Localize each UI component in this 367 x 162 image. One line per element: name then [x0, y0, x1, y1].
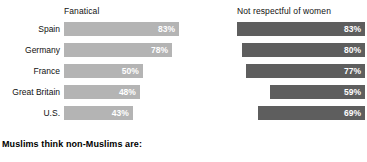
bar-fanatical: 48% — [64, 85, 140, 99]
bar-track-right: 69% — [237, 106, 365, 120]
bar-value-label: 59% — [344, 85, 361, 99]
bar-value-label: 43% — [112, 106, 129, 120]
bar-track-right: 83% — [237, 22, 365, 36]
chart-container: Fanatical Not respectful of women Spain … — [0, 0, 367, 162]
chart-row: Spain 83% 83% — [0, 22, 367, 36]
bar-value-label: 48% — [119, 85, 136, 99]
panel-header-fanatical: Fanatical — [64, 6, 99, 16]
chart-row: U.S. 43% 69% — [0, 106, 367, 120]
bar-track-left: 48% — [64, 85, 179, 99]
bar-not-respectful: 69% — [258, 106, 365, 120]
bar-fanatical: 43% — [64, 106, 133, 120]
chart-caption: Muslims think non-Muslims are: — [2, 139, 142, 149]
bar-not-respectful: 59% — [270, 85, 365, 99]
bar-fanatical: 83% — [64, 22, 179, 36]
bar-value-label: 83% — [344, 22, 361, 36]
chart-row: Germany 78% 80% — [0, 43, 367, 57]
chart-row: France 50% 77% — [0, 64, 367, 78]
bar-value-label: 50% — [122, 64, 139, 78]
category-label: Great Britain — [0, 85, 60, 99]
category-label: Spain — [0, 22, 60, 36]
bar-track-left: 50% — [64, 64, 179, 78]
bar-track-left: 78% — [64, 43, 179, 57]
bar-value-label: 77% — [344, 64, 361, 78]
bar-track-left: 43% — [64, 106, 179, 120]
bar-value-label: 78% — [151, 43, 168, 57]
bar-track-right: 59% — [237, 85, 365, 99]
category-label: France — [0, 64, 60, 78]
bar-fanatical: 78% — [64, 43, 172, 57]
bar-value-label: 69% — [344, 106, 361, 120]
category-label: Germany — [0, 43, 60, 57]
bar-track-right: 80% — [237, 43, 365, 57]
bar-not-respectful: 77% — [246, 64, 365, 78]
bar-fanatical: 50% — [64, 64, 143, 78]
bar-value-label: 83% — [158, 22, 175, 36]
bar-not-respectful: 83% — [237, 22, 365, 36]
chart-row: Great Britain 48% 59% — [0, 85, 367, 99]
category-label: U.S. — [0, 106, 60, 120]
bar-not-respectful: 80% — [242, 43, 365, 57]
bar-value-label: 80% — [344, 43, 361, 57]
panel-header-not-respectful: Not respectful of women — [237, 6, 331, 16]
bar-track-left: 83% — [64, 22, 179, 36]
bar-track-right: 77% — [237, 64, 365, 78]
